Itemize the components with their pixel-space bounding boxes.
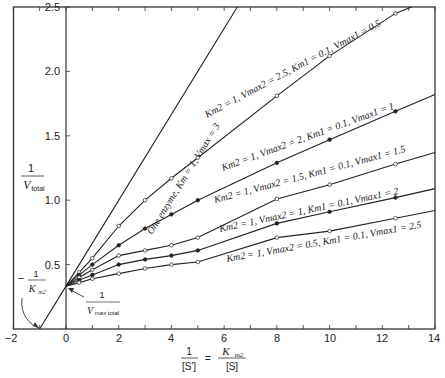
data-point-marker (117, 254, 121, 258)
data-point-marker (196, 249, 200, 253)
data-point-marker (170, 213, 174, 217)
data-point-marker (170, 263, 174, 267)
svg-text:K: K (28, 283, 37, 294)
data-point-marker (394, 216, 398, 220)
y-axis-label: 1 V total (21, 162, 45, 192)
data-point-marker (170, 177, 174, 181)
km-intercept-annotation: − 1 K m2 (18, 269, 46, 328)
x-tick-label: 10 (324, 332, 336, 344)
series-markers (77, 12, 397, 285)
vmax-intercept-annotation: 1 V max total (68, 288, 120, 316)
data-point-marker (196, 198, 200, 202)
data-point-marker (91, 268, 95, 272)
x-tick-label: 4 (168, 332, 174, 344)
y-tick-label: 2.0 (45, 65, 60, 77)
svg-text:[S′]: [S′] (182, 361, 196, 372)
svg-text:=: = (205, 353, 211, 364)
svg-text:total: total (31, 185, 45, 192)
data-point-marker (143, 258, 147, 262)
data-point-marker (117, 272, 121, 276)
x-tick-label: 0 (63, 332, 69, 344)
data-point-marker (143, 198, 147, 202)
svg-text:1: 1 (186, 346, 192, 357)
svg-text:K: K (221, 345, 230, 357)
data-point-marker (328, 138, 332, 142)
x-tick-label: −2 (5, 332, 18, 344)
lineweaver-burk-chart: 2.5 2.0 1.5 1.0 0.5 −2 0 2 4 6 8 10 12 1… (0, 0, 445, 378)
data-point-marker (170, 243, 174, 247)
svg-text:V: V (87, 305, 95, 316)
svg-text:[S]: [S] (226, 361, 238, 372)
data-point-marker (117, 243, 121, 247)
x-tick-label: 14 (428, 332, 440, 344)
data-point-marker (91, 273, 95, 277)
data-point-marker (196, 236, 200, 240)
y-tick-label: 2.5 (45, 1, 60, 13)
data-point-marker (143, 249, 147, 253)
svg-text:1: 1 (99, 290, 104, 300)
data-point-marker (394, 12, 398, 16)
data-point-marker (143, 267, 147, 271)
series-line-0 (40, 7, 238, 329)
x-tick-label: 2 (116, 332, 122, 344)
data-point-marker (117, 263, 121, 267)
data-point-marker (91, 277, 95, 281)
svg-text:1: 1 (28, 162, 34, 174)
x-axis-label: 1 [S′] = K m2 [S] (181, 345, 246, 372)
svg-text:m2: m2 (38, 289, 45, 295)
svg-text:max total: max total (95, 310, 119, 316)
y-tick-label: 1.5 (45, 130, 60, 142)
data-point-marker (328, 229, 332, 233)
x-tick-label: 6 (221, 332, 227, 344)
data-point-marker (196, 260, 200, 264)
data-point-marker (275, 197, 279, 201)
x-tick-label: 8 (274, 332, 280, 344)
svg-text:−: − (18, 272, 24, 284)
series-line-4 (66, 189, 435, 287)
data-point-marker (275, 161, 279, 165)
data-point-marker (91, 263, 95, 267)
line-label: Km2 = 1, Vmax2 = 2.5, Km1 = 0.1, Vmax1 =… (202, 17, 383, 120)
svg-text:1: 1 (33, 269, 38, 279)
data-point-marker (77, 281, 81, 285)
data-point-marker (275, 94, 279, 98)
data-point-marker (91, 256, 95, 260)
y-tick-label: 0.5 (45, 259, 60, 271)
data-point-marker (328, 183, 332, 187)
y-tick-label: 1.0 (45, 194, 60, 206)
data-point-marker (117, 224, 121, 228)
data-point-marker (394, 162, 398, 166)
data-point-marker (170, 254, 174, 258)
line-label: One enzyme, Km = 1, Vmax = 3 (144, 121, 222, 236)
x-tick-label: 12 (376, 332, 388, 344)
data-point-marker (275, 236, 279, 240)
series-lines (40, 7, 435, 329)
